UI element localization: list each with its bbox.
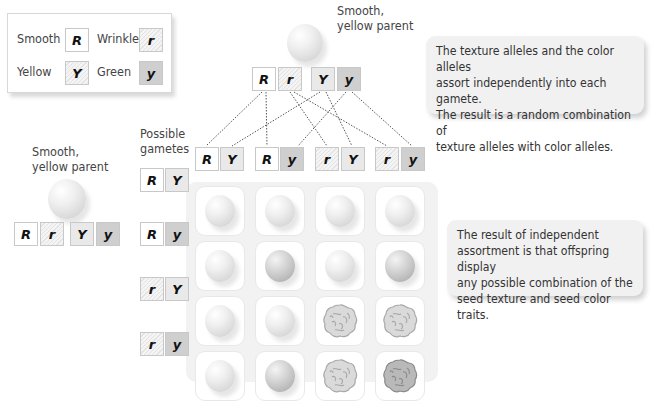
col-gamete-3-color: Y [341, 147, 365, 171]
row-gamete-1-color: Y [165, 168, 189, 192]
punnett-cell-smooth-green [255, 351, 305, 401]
smooth-yellow-pea-icon [265, 305, 295, 337]
punnett-cell-smooth-yellow [195, 186, 245, 236]
smooth-yellow-pea-icon [205, 250, 235, 282]
smooth-yellow-pea-icon [205, 195, 235, 227]
col-gamete-1-color: Y [220, 147, 244, 171]
row-gamete-2-color: y [165, 222, 189, 246]
punnett-cell-wrinkled-yellow [315, 351, 365, 401]
punnett-cell-wrinkled-green [375, 351, 425, 401]
left-parent-allele-y: y [96, 222, 120, 246]
punnett-cell-wrinkled-yellow [315, 296, 365, 346]
punnett-cell-smooth-green [375, 241, 425, 291]
row-gamete-2-texture: R [140, 222, 164, 246]
left-parent-allele-r: r [40, 222, 64, 246]
smooth-yellow-pea-icon [205, 305, 235, 337]
row-gamete-3-texture: r [140, 277, 164, 301]
punnett-cell-smooth-yellow [255, 296, 305, 346]
wrinkled-yellow-pea-icon [321, 302, 359, 344]
smooth-green-pea-icon [385, 250, 415, 282]
punnett-cell-smooth-yellow [195, 296, 245, 346]
smooth-green-pea-icon [265, 250, 295, 282]
row-gamete-3-color: Y [165, 277, 189, 301]
col-gamete-1-texture: R [195, 147, 219, 171]
punnett-cell-smooth-yellow [315, 186, 365, 236]
info-line: texture alleles with color alleles. [436, 139, 644, 155]
possible-gametes-label-line2: gametes [140, 141, 189, 156]
col-gamete-3-texture: r [315, 147, 339, 171]
info-line: The result of independent [457, 227, 643, 243]
punnett-cell-wrinkled-yellow [375, 296, 425, 346]
wrinkled-yellow-pea-icon [381, 302, 419, 344]
left-parent-label-line1: Smooth, [32, 144, 79, 159]
row-gamete-1-texture: R [140, 168, 164, 192]
info-line: The result is a random combination of [436, 107, 644, 139]
smooth-yellow-pea-icon [205, 360, 235, 392]
wrinkled-green-pea-icon [381, 357, 419, 399]
info-line: The texture alleles and the color allele… [436, 43, 644, 75]
punnett-cell-smooth-green [255, 241, 305, 291]
info-line: seed texture and seed color traits. [457, 291, 643, 323]
punnett-cell-smooth-yellow [315, 241, 365, 291]
info-line: any possible combination of the [457, 275, 643, 291]
info-box-independent-assortment: The texture alleles and the color allele… [426, 36, 644, 114]
punnett-cell-smooth-yellow [375, 186, 425, 236]
col-gamete-4-texture: r [375, 147, 399, 171]
col-gamete-4-color: y [401, 147, 425, 171]
punnett-cell-smooth-yellow [255, 186, 305, 236]
wrinkled-yellow-pea-icon [321, 357, 359, 399]
smooth-yellow-pea-icon [325, 250, 355, 282]
left-parent-label-line2: yellow parent [32, 159, 108, 174]
punnett-cell-smooth-yellow [195, 351, 245, 401]
possible-gametes-label-line1: Possible [140, 126, 185, 141]
info-line: assortment is that offspring display [457, 243, 643, 275]
row-gamete-4-color: y [165, 332, 189, 356]
row-gamete-4-texture: r [140, 332, 164, 356]
left-parent-allele-Y: Y [70, 222, 94, 246]
smooth-yellow-pea-icon [385, 195, 415, 227]
col-gamete-2-texture: R [255, 147, 279, 171]
left-parent-allele-R: R [14, 222, 38, 246]
info-box-offspring-result: The result of independent assortment is … [447, 220, 643, 296]
info-line: assort independently into each gamete. [436, 75, 644, 107]
smooth-green-pea-icon [265, 360, 295, 392]
col-gamete-2-color: y [280, 147, 304, 171]
smooth-yellow-pea-icon [265, 195, 295, 227]
smooth-yellow-pea-icon [325, 195, 355, 227]
left-parent-pea [48, 179, 86, 219]
punnett-cell-smooth-yellow [195, 241, 245, 291]
